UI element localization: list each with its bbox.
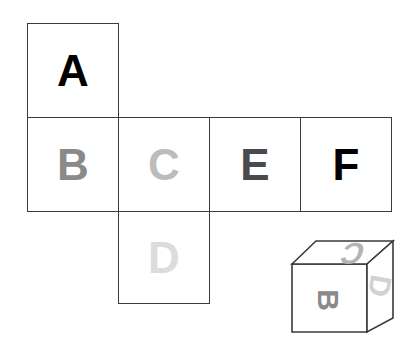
net-square-c-letter: C <box>148 143 180 187</box>
net-square-d: D <box>118 211 210 304</box>
net-square-d-letter: D <box>148 236 180 280</box>
net-square-b: B <box>27 117 119 212</box>
net-square-f: F <box>300 117 392 212</box>
net-square-e-letter: E <box>240 143 269 187</box>
net-square-b-letter: B <box>57 143 89 187</box>
folded-cube: B C D <box>283 232 403 344</box>
figure-canvas: A B C E F D B C D <box>0 0 415 357</box>
cube-svg: B C D <box>283 232 403 344</box>
net-square-e: E <box>209 117 301 212</box>
net-square-f-letter: F <box>333 143 360 187</box>
net-square-a-letter: A <box>57 49 89 93</box>
net-square-a: A <box>27 23 119 118</box>
cube-front-letter: B <box>312 289 345 311</box>
net-square-c: C <box>118 117 210 212</box>
